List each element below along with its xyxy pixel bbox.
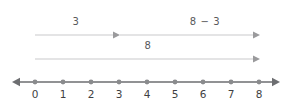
axis-dot	[173, 80, 178, 85]
tick-label-5: 5	[172, 89, 179, 100]
axis-dot	[229, 80, 234, 85]
bar-eight-minus-three-arrowhead-icon	[253, 32, 260, 39]
bar-eight-group	[35, 56, 260, 63]
axis-dot	[201, 80, 206, 85]
bar-eight-label: 8	[145, 41, 152, 51]
bar-three-arrowhead-icon	[113, 32, 120, 39]
axis-dot	[33, 80, 38, 85]
axis-dot	[117, 80, 122, 85]
tick-label-8: 8	[256, 89, 263, 100]
bar-eight-minus-three-label: 8 − 3	[190, 17, 220, 27]
number-line-diagram: 3 8 − 3 8 0 1 2 3 4 5 6 7 8	[0, 0, 292, 105]
tick-label-2: 2	[88, 89, 95, 100]
tick-label-1: 1	[60, 89, 67, 100]
axis-right-arrowhead-icon	[272, 78, 280, 86]
bar-three-label: 3	[73, 17, 80, 27]
tick-label-3: 3	[116, 89, 123, 100]
bar-eight-arrowhead-icon	[253, 56, 260, 63]
tick-label-4: 4	[144, 89, 151, 100]
axis-dot	[257, 80, 262, 85]
bar-eight-minus-three-group	[120, 32, 260, 39]
axis-left-arrowhead-icon	[12, 78, 20, 86]
bar-three-group	[35, 32, 120, 39]
tick-label-7: 7	[228, 89, 235, 100]
axis-dot	[89, 80, 94, 85]
tick-label-0: 0	[32, 89, 39, 100]
axis-dot	[145, 80, 150, 85]
tick-label-6: 6	[200, 89, 207, 100]
axis-dot	[61, 80, 66, 85]
number-line-axis	[12, 78, 280, 86]
